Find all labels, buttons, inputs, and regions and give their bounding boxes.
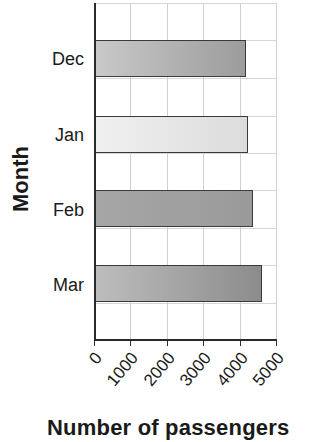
category-label-dec: Dec bbox=[24, 49, 84, 69]
x-axis bbox=[94, 339, 277, 341]
category-label-jan: Jan bbox=[24, 125, 84, 145]
hgridline bbox=[94, 228, 277, 229]
x-tick bbox=[203, 341, 204, 346]
bar-mar bbox=[95, 265, 262, 302]
hgridline bbox=[94, 78, 277, 79]
x-tick bbox=[276, 341, 277, 346]
gridline-5000 bbox=[276, 3, 277, 341]
x-tick bbox=[167, 341, 168, 346]
x-tick bbox=[94, 341, 95, 346]
y-axis-title: Month bbox=[8, 146, 34, 212]
bar-jan bbox=[95, 116, 248, 153]
y-axis bbox=[94, 3, 96, 341]
bar-feb bbox=[95, 190, 253, 227]
bar-dec bbox=[95, 40, 246, 77]
x-tick bbox=[240, 341, 241, 346]
category-label-mar: Mar bbox=[24, 275, 84, 295]
hgridline bbox=[94, 153, 277, 154]
x-tick bbox=[130, 341, 131, 346]
hgridline bbox=[94, 3, 277, 4]
hgridline bbox=[94, 303, 277, 304]
plot-area bbox=[94, 3, 277, 341]
x-axis-title: Number of passengers bbox=[47, 415, 289, 441]
